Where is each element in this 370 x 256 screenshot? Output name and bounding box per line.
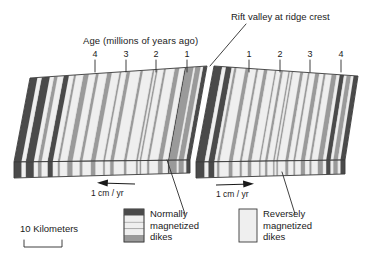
legend-line-1: Reversely	[263, 208, 312, 220]
legend-line-2: magnetized	[150, 220, 199, 232]
magnetic-stripe	[141, 160, 147, 174]
magnetic-stripe	[177, 160, 179, 173]
spreading-rate-left-label: 1 cm / yr	[91, 189, 124, 198]
magnetic-stripe	[163, 160, 168, 174]
magnetic-stripe	[38, 162, 42, 178]
magnetic-stripe	[103, 161, 105, 176]
magnetic-stripe	[41, 162, 47, 178]
magnetic-stripe	[305, 160, 309, 175]
magnetic-stripe	[79, 161, 82, 176]
figure-canvas: Rift valley at ridge crest Age (millions…	[0, 0, 370, 256]
magnetic-stripe	[196, 162, 205, 178]
magnetic-stripe	[318, 160, 323, 174]
magnetic-stripe	[338, 160, 341, 174]
magnetic-stripe	[251, 161, 259, 176]
magnetic-stripe	[214, 162, 217, 178]
magnetic-stripe	[60, 161, 67, 176]
magnetic-stripe	[67, 161, 72, 176]
magnetic-stripe	[138, 161, 140, 175]
magnetic-stripe	[278, 161, 285, 176]
spreading-rate-right-label: 1 cm / yr	[216, 190, 249, 199]
magnetic-stripe	[186, 160, 190, 173]
magnetic-stripe	[139, 161, 141, 175]
legend-swatch-band	[124, 216, 144, 223]
left-seafloor-slab	[14, 66, 207, 162]
right-front-face	[196, 160, 345, 178]
magnetic-stripe	[229, 162, 233, 178]
magnetic-stripe	[126, 161, 136, 175]
magnetic-stripe	[184, 160, 186, 173]
legend-swatch-reversely-magnetized	[239, 209, 257, 242]
magnetic-stripe	[26, 162, 34, 178]
legend-line-3: dikes	[150, 231, 199, 243]
legend-swatch-band	[124, 222, 144, 229]
ridge-crest-leader-line	[210, 24, 246, 66]
magnetic-stripe	[242, 161, 248, 176]
legend-swatch-band	[124, 209, 144, 216]
magnetic-stripe	[34, 162, 38, 178]
magnetic-stripe	[217, 162, 219, 178]
magnetic-stripe	[82, 161, 90, 176]
left-slab-stripes	[14, 66, 207, 162]
magnetic-stripe	[275, 161, 277, 176]
magnetic-stripe	[240, 161, 242, 176]
age-axis-title: Age (millions of years ago)	[83, 36, 198, 46]
magnetic-stripe	[288, 161, 293, 176]
magnetic-stripe	[331, 160, 334, 174]
magnetic-stripe	[323, 160, 326, 174]
legend-swatch-band	[124, 229, 144, 236]
magnetic-stripe	[276, 161, 277, 176]
magnetic-stripe	[114, 161, 124, 175]
magnetic-stripe	[326, 160, 330, 174]
magnetic-stripe	[248, 161, 252, 176]
age-tick-label: 1	[181, 50, 193, 59]
age-tick-label: 1	[243, 50, 255, 59]
age-tick-label: 4	[89, 50, 101, 59]
magnetic-stripe	[95, 161, 103, 176]
right-seafloor-slab	[196, 66, 358, 162]
magnetic-stripe	[268, 161, 274, 176]
magnetic-stripe	[285, 161, 288, 176]
left-front-face	[14, 160, 190, 178]
magnetic-stripe	[310, 160, 312, 175]
legend-line-2: magnetized	[263, 220, 312, 232]
magnetic-stripe	[178, 160, 183, 173]
legend-item-reversely-magnetized: Reversely magnetized dikes	[263, 208, 312, 243]
scale-bar	[24, 240, 62, 247]
magnetic-stripe	[158, 160, 163, 174]
magnetic-stripe	[21, 162, 25, 178]
magnetic-stripe	[91, 161, 96, 176]
scale-bar-label: 10 Kilometers	[20, 224, 78, 234]
age-tick-label: 3	[304, 50, 316, 59]
magnetic-stripe	[58, 161, 60, 176]
magnetic-stripe	[110, 161, 114, 175]
magnetic-stripe	[147, 160, 149, 174]
legend-swatch-normally-magnetized	[124, 209, 144, 242]
arrow-right	[216, 180, 254, 187]
magnetic-stripe	[273, 161, 274, 176]
age-tick-label: 3	[120, 50, 132, 59]
legend-line-3: dikes	[263, 231, 312, 243]
magnetic-stripe	[14, 162, 21, 178]
magnetic-stripe	[205, 162, 209, 178]
magnetic-stripe	[53, 162, 58, 177]
magnetic-stripe	[169, 160, 176, 173]
magnetic-stripe	[261, 161, 265, 176]
magnetic-stripe	[259, 161, 260, 176]
age-tick-label: 2	[150, 50, 162, 59]
magnetic-stripe	[149, 160, 158, 174]
ridge-crest-callout: Rift valley at ridge crest	[231, 12, 330, 22]
right-slab-stripes	[196, 66, 358, 162]
legend-line-1: Normally	[150, 208, 199, 220]
magnetic-stripe	[293, 161, 295, 176]
magnetic-stripe	[295, 161, 301, 176]
legend-item-normally-magnetized: Normally magnetized dikes	[150, 208, 199, 243]
age-tick-label: 2	[274, 50, 286, 59]
magnetic-stripe	[333, 160, 337, 174]
magnetic-stripe	[209, 162, 215, 178]
magnetic-stripe	[233, 161, 240, 177]
legend-swatch-band	[124, 235, 144, 242]
magnetic-stripe	[301, 161, 305, 176]
age-tick-label: 4	[335, 50, 347, 59]
magnetic-stripe	[72, 161, 79, 176]
